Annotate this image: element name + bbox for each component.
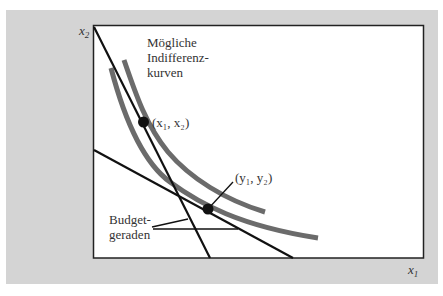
y-axis-label: x2 (78, 23, 90, 40)
point1-label: (x₁, x₂) (152, 115, 189, 130)
curves-label-line1: Mögliche (147, 35, 197, 50)
point-x1-x2 (138, 117, 149, 128)
curves-label-line2: Indifferenz- (147, 50, 209, 65)
point2-label: (y₁, y₂) (235, 170, 272, 185)
budget-label-line2: geraden (109, 227, 151, 242)
budget-label-line1: Budget- (109, 212, 151, 227)
curves-label-line3: kurven (147, 65, 184, 80)
diagram: x2 x1 Mögliche Indifferenz- kurven (x₁, … (0, 0, 443, 296)
x-axis-label: x1 (407, 262, 418, 279)
